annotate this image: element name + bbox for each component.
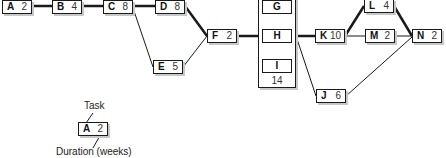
network-edges xyxy=(0,0,446,158)
duration-label: 2 xyxy=(226,30,232,42)
task-label: B xyxy=(57,1,64,13)
node-l: L 4 xyxy=(364,0,394,13)
edge-l-n xyxy=(394,6,412,36)
edge-k-l xyxy=(345,6,364,36)
duration-label: 2 xyxy=(431,30,437,42)
node-j: J 6 xyxy=(316,89,346,103)
node-d: D 8 xyxy=(155,0,185,14)
node-c: C 8 xyxy=(103,0,133,14)
node-n: N 2 xyxy=(412,29,442,43)
node-f: F 2 xyxy=(207,29,237,43)
duration-label: 2 xyxy=(384,30,390,42)
duration-label: 4 xyxy=(383,0,389,12)
task-label: C xyxy=(108,1,115,13)
duration-label: 6 xyxy=(335,90,341,102)
task-label: N xyxy=(417,30,424,42)
task-label: L xyxy=(369,0,375,12)
task-label: A xyxy=(7,1,14,13)
legend-duration-label: Duration (weeks) xyxy=(56,146,132,157)
node-h: H xyxy=(262,29,292,43)
duration-label: 2 xyxy=(97,123,103,135)
duration-label: 5 xyxy=(172,61,178,73)
task-label: D xyxy=(160,1,167,13)
node-k: K 10 xyxy=(315,29,345,43)
edge-j-n xyxy=(346,37,412,96)
node-e: E 5 xyxy=(153,60,183,74)
node-i: I xyxy=(262,59,292,73)
edge-c-e xyxy=(133,8,153,67)
duration-label: 4 xyxy=(71,1,77,13)
edge-ghi-j xyxy=(296,36,316,96)
node-a: A 2 xyxy=(2,0,32,14)
group-duration: 14 xyxy=(259,75,295,86)
duration-label: 10 xyxy=(330,30,341,42)
legend-example-node: A 2 xyxy=(78,122,108,136)
parallel-group-ghi: G H I 14 xyxy=(258,0,296,88)
duration-label: 8 xyxy=(122,1,128,13)
task-label: A xyxy=(83,123,90,135)
duration-label: 8 xyxy=(174,1,180,13)
node-b: B 4 xyxy=(52,0,82,14)
duration-label: 2 xyxy=(21,1,27,13)
edge-e-f xyxy=(183,36,207,67)
edge-d-f xyxy=(185,6,207,36)
legend-task-label: Task xyxy=(84,100,105,111)
task-label: F xyxy=(212,30,218,42)
task-label: K xyxy=(320,30,327,42)
node-g: G xyxy=(262,0,292,14)
task-label: M xyxy=(370,30,378,42)
node-m: M 2 xyxy=(365,29,395,43)
task-label: J xyxy=(321,90,327,102)
task-label: E xyxy=(158,61,165,73)
